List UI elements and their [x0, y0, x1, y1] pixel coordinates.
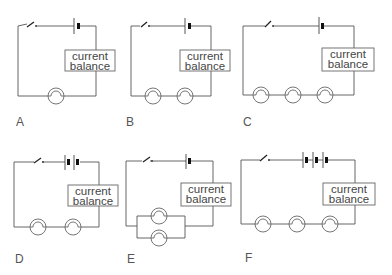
- circuit-label-c: C: [243, 115, 252, 129]
- svg-text:balance: balance: [186, 193, 226, 205]
- switch-icon: [143, 157, 153, 162]
- battery-cell-icon: [303, 152, 308, 168]
- circuit-label-b: B: [126, 115, 134, 129]
- current-balance-box: current balance: [68, 185, 118, 207]
- svg-text:balance: balance: [73, 195, 113, 207]
- circuit-label-a: A: [16, 115, 24, 129]
- current-balance-box: current balance: [323, 183, 375, 206]
- svg-text:balance: balance: [328, 58, 368, 70]
- circuit-f: current balance F: [241, 152, 375, 265]
- battery-cell-icon: [313, 152, 318, 168]
- svg-text:balance: balance: [185, 60, 225, 72]
- lamp-bulb-icon: [65, 219, 81, 235]
- switch-icon: [265, 21, 274, 27]
- lamp-bulb-icon: [151, 230, 167, 246]
- circuit-diagram: current balance A current balance: [0, 0, 392, 275]
- lamp-bulb-icon: [255, 216, 271, 232]
- battery-cell-icon: [74, 18, 80, 34]
- lamp-bulb-icon: [253, 87, 269, 103]
- circuit-label-d: D: [15, 252, 24, 266]
- circuit-a: current balance A: [16, 18, 115, 129]
- svg-text:balance: balance: [329, 193, 369, 205]
- switch-icon: [34, 158, 44, 163]
- switch-icon: [141, 22, 150, 27]
- lamp-bulb-icon: [145, 88, 161, 104]
- lamp-bulb-icon: [30, 219, 46, 235]
- battery-cell-icon: [65, 155, 70, 170]
- battery-cell-icon: [185, 18, 191, 34]
- circuit-label-e: E: [127, 252, 135, 266]
- svg-text:balance: balance: [70, 60, 110, 72]
- battery-cell-icon: [319, 17, 324, 34]
- lamp-bulb-icon: [285, 87, 301, 103]
- lamp-bulb-icon: [317, 87, 333, 103]
- switch-icon: [27, 22, 37, 27]
- circuit-d: current balance D: [14, 155, 118, 266]
- lamp-bulb-icon: [48, 88, 64, 104]
- battery-cell-icon: [186, 154, 191, 169]
- lamp-bulb-icon: [151, 208, 167, 224]
- switch-icon: [260, 155, 270, 161]
- circuit-b: current balance B: [126, 18, 230, 129]
- lamp-bulb-icon: [289, 216, 305, 232]
- current-balance-box: current balance: [181, 183, 231, 206]
- battery-cell-icon: [74, 155, 79, 170]
- circuit-label-f: F: [245, 251, 252, 265]
- lamp-bulb-icon: [177, 88, 193, 104]
- current-balance-box: current balance: [322, 48, 374, 71]
- current-balance-box: current balance: [65, 50, 115, 72]
- circuit-c: current balance C: [243, 17, 374, 129]
- current-balance-box: current balance: [180, 50, 230, 72]
- lamp-bulb-icon: [322, 216, 338, 232]
- circuit-e: current balance E: [126, 154, 231, 266]
- battery-cell-icon: [323, 152, 328, 168]
